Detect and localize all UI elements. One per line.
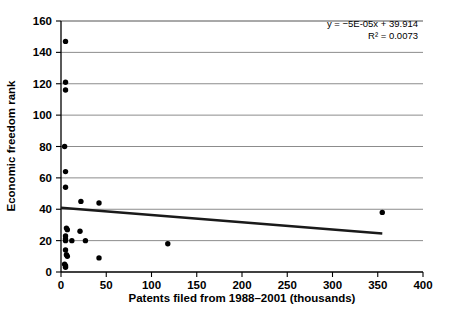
data-points-group xyxy=(62,39,385,270)
x-tick-label: 150 xyxy=(187,279,206,291)
x-tick-label: 250 xyxy=(278,279,297,291)
caption-ghost-line xyxy=(8,307,442,316)
y-tick-label: 160 xyxy=(33,15,52,27)
data-point xyxy=(63,87,68,92)
y-tick-label: 100 xyxy=(33,109,52,121)
x-tick-marks xyxy=(61,272,423,277)
regression-equation: y = −5E-05x + 39.914 xyxy=(327,18,418,29)
data-point xyxy=(83,238,88,243)
data-point xyxy=(63,39,68,44)
y-tick-label: 120 xyxy=(33,78,52,90)
scatter-chart: 050100150200250300350400 020406080100120… xyxy=(0,0,450,318)
data-point xyxy=(78,199,83,204)
trendline-segment xyxy=(61,208,382,234)
data-point xyxy=(62,144,67,149)
x-tick-label: 100 xyxy=(142,279,161,291)
x-tick-label: 350 xyxy=(368,279,387,291)
data-point xyxy=(63,185,68,190)
y-tick-label: 80 xyxy=(39,141,52,153)
x-tick-labels: 050100150200250300350400 xyxy=(58,279,433,291)
figure-container: 050100150200250300350400 020406080100120… xyxy=(0,0,450,318)
x-tick-label: 300 xyxy=(323,279,342,291)
x-tick-label: 50 xyxy=(100,279,113,291)
y-axis-label: Economic freedom rank xyxy=(5,80,17,212)
data-point xyxy=(65,254,70,259)
x-axis-label: Patents filed from 1988–2001 (thousands) xyxy=(129,292,356,304)
x-tick-label: 200 xyxy=(232,279,251,291)
gridlines-group xyxy=(61,21,423,241)
y-tick-label: 60 xyxy=(39,172,52,184)
y-tick-labels: 020406080100120140160 xyxy=(33,15,52,278)
y-tick-marks xyxy=(56,21,61,272)
y-tick-label: 40 xyxy=(39,203,52,215)
data-point xyxy=(63,247,68,252)
data-point xyxy=(77,229,82,234)
data-point xyxy=(380,210,385,215)
y-tick-label: 20 xyxy=(39,235,52,247)
data-point xyxy=(65,227,70,232)
data-point xyxy=(165,241,170,246)
data-point xyxy=(63,169,68,174)
data-point xyxy=(69,238,74,243)
trendline xyxy=(61,208,382,234)
x-tick-label: 0 xyxy=(58,279,64,291)
r-squared-label: R² = 0.0073 xyxy=(368,30,418,41)
data-point xyxy=(63,238,68,243)
y-tick-label: 140 xyxy=(33,46,52,58)
data-point xyxy=(96,255,101,260)
data-point xyxy=(63,79,68,84)
y-tick-label: 0 xyxy=(46,266,52,278)
data-point xyxy=(96,200,101,205)
data-point xyxy=(63,265,68,270)
x-tick-label: 400 xyxy=(413,279,432,291)
